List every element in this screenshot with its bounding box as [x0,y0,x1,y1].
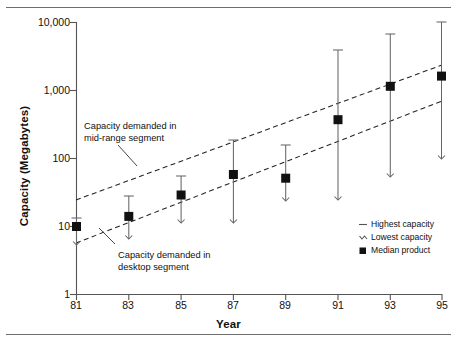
median-marker-83 [124,212,133,221]
figure-chart-capacity: Capacity (Megabytes) Year 10,000 1,000 1… [0,0,457,343]
y-axis-ticks [70,23,76,295]
filled-square-icon [358,244,371,257]
median-marker-87 [229,170,238,179]
annotation-leader-lines [99,145,137,244]
data-series-error-bars [72,22,447,245]
median-marker-91 [334,115,343,124]
legend-label-highest-capacity: Highest capacity [371,218,434,231]
chart-legend: Highest capacity Lowest capacity Median … [358,218,434,257]
lower-cap-icon [358,231,371,244]
median-marker-89 [281,174,290,183]
plot-area [0,0,457,343]
legend-item-median-product: Median product [358,244,434,257]
legend-label-lowest-capacity: Lowest capacity [371,231,432,244]
legend-item-lowest-capacity: Lowest capacity [358,231,434,244]
median-marker-81 [72,222,81,231]
upper-cap-icon [358,218,371,231]
median-marker-93 [386,82,395,91]
median-marker-85 [177,191,186,200]
median-marker-95 [437,72,446,81]
legend-label-median-product: Median product [371,244,430,257]
legend-item-highest-capacity: Highest capacity [358,218,434,231]
